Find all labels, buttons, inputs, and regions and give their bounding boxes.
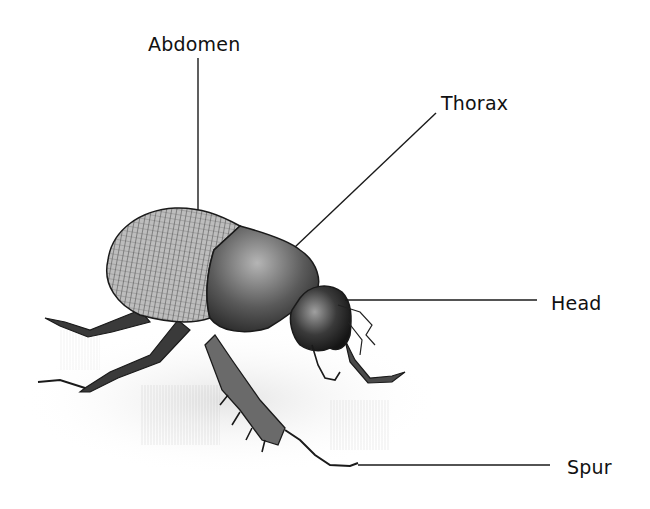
label-thorax: Thorax [441,92,508,114]
ground-shading [20,325,440,475]
label-head: Head [551,292,601,314]
beetle-diagram: Abdomen Thorax Head Spur [0,0,650,509]
label-abdomen: Abdomen [148,33,240,55]
label-spur: Spur [567,456,612,478]
beetle-illustration [0,0,650,509]
leader-thorax [295,113,436,247]
